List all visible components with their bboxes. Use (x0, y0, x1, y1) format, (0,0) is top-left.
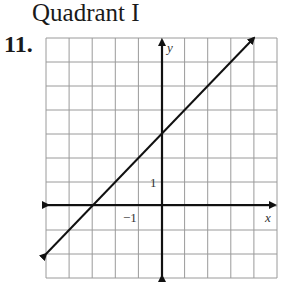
coordinate-graph: y x 1 −1 (0, 0, 296, 299)
plotted-line (46, 38, 254, 254)
x-tick-label: −1 (123, 210, 137, 225)
y-axis-label: y (165, 40, 173, 55)
y-tick-label: 1 (150, 175, 157, 190)
x-axis-label: x (264, 210, 271, 225)
